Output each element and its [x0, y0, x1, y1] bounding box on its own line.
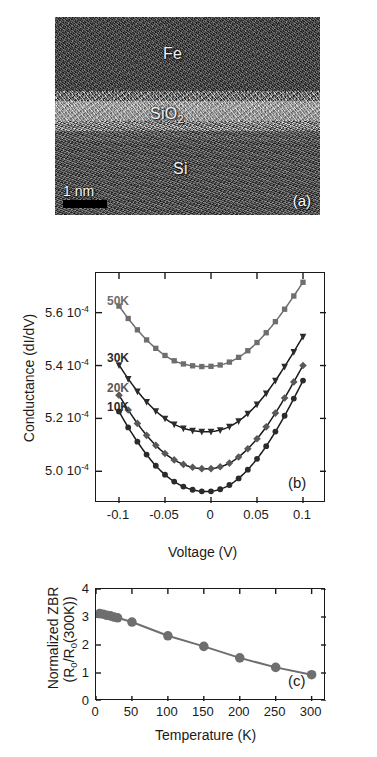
data-point-marker	[208, 488, 214, 494]
panel-a-tag: (a)	[293, 192, 311, 209]
data-point-marker	[236, 476, 242, 482]
data-point-marker	[144, 452, 150, 458]
panel-c-y-tick-label: 4	[82, 581, 89, 596]
data-point-marker	[180, 461, 188, 469]
data-point-marker	[254, 456, 260, 462]
data-point-marker	[171, 479, 177, 485]
ylabel-c-sub2: 0	[68, 643, 79, 648]
panel-c-tag: (c)	[288, 672, 306, 689]
data-point-marker	[180, 484, 186, 490]
panel-b-series-label-30K: 30K	[107, 351, 129, 365]
data-point-marker	[227, 359, 232, 364]
ylabel-c-suffix: (300K))	[61, 596, 77, 643]
scale-bar-line	[63, 200, 107, 208]
data-point-marker	[199, 364, 204, 369]
data-point-marker	[189, 464, 197, 472]
panel-b-x-axis-title: Voltage (V)	[168, 544, 237, 560]
panel-b-x-tick-label: -0.05	[149, 507, 179, 522]
data-point-marker	[162, 472, 168, 478]
data-point-marker	[236, 355, 241, 360]
data-point-marker	[162, 353, 167, 358]
ylabel-c-mid: /R	[61, 648, 77, 662]
panel-c-x-tick-label: 150	[192, 704, 214, 719]
data-point-marker	[272, 429, 278, 435]
tem-label-sio2-subscript: 2	[178, 113, 184, 125]
scale-bar: 1 nm	[63, 183, 107, 208]
data-point-marker	[271, 663, 281, 673]
data-point-marker	[263, 443, 269, 449]
panel-b-y-tick-label: 5.2 10-4	[45, 409, 89, 425]
data-point-marker	[264, 330, 269, 335]
ylabel-c-prefix: (R	[61, 668, 77, 683]
data-point-marker	[163, 631, 173, 641]
y-tick-mantissa: 5.0 10	[45, 463, 81, 478]
data-point-marker	[281, 394, 289, 402]
data-point-marker	[299, 362, 307, 370]
panel-c-series-normalized-zbr	[96, 609, 316, 680]
tem-label-si: Si	[173, 160, 188, 178]
panel-c-y-tick-label: 3	[82, 609, 89, 624]
data-point-marker	[300, 280, 305, 285]
data-point-marker	[207, 465, 215, 473]
scale-bar-label: 1 nm	[63, 183, 107, 199]
data-point-marker	[170, 456, 178, 464]
data-point-marker	[300, 378, 306, 384]
data-point-marker	[245, 348, 250, 353]
panel-b-x-tick-label: 0.1	[293, 507, 311, 522]
panel-c-y-axis-title-line2: (R0/R0(300K))	[61, 579, 80, 699]
data-point-marker	[216, 463, 224, 471]
panel-c-x-axis-title: Temperature (K)	[155, 727, 256, 743]
panel-b-y-tick-label: 5.0 10-4	[45, 462, 89, 478]
data-point-marker	[190, 363, 195, 368]
tem-layer-fe	[55, 17, 320, 101]
panel-b-y-tick-label: 5.4 10-4	[45, 356, 89, 372]
data-point-marker	[226, 482, 232, 488]
data-point-marker	[144, 337, 149, 342]
tem-label-fe: Fe	[163, 45, 182, 63]
data-point-marker	[172, 358, 177, 363]
data-point-marker	[153, 346, 158, 351]
data-point-marker	[198, 465, 206, 473]
y-tick-mantissa: 5.2 10	[45, 411, 81, 426]
data-point-marker	[290, 378, 298, 386]
panel-b-y-tick-label: 5.6 10-4	[45, 303, 89, 319]
data-point-marker	[125, 424, 131, 430]
panel-b-series-label-20K: 20K	[107, 381, 129, 395]
data-point-marker	[226, 459, 234, 467]
panel-b-series-label-50K: 50K	[107, 294, 129, 308]
tem-label-sio2-text: SiO	[150, 105, 178, 122]
panel-c-x-tick-label: 100	[156, 704, 178, 719]
panel-c-x-tick-label: 250	[264, 704, 286, 719]
panel-b-series-30K	[116, 334, 307, 436]
panel-b-x-tick-label: -0.1	[107, 507, 129, 522]
y-tick-exponent: -4	[81, 462, 89, 472]
data-point-marker	[235, 653, 245, 663]
tem-label-sio2: SiO2	[150, 105, 184, 125]
panel-b-tag: (b)	[288, 474, 306, 491]
data-point-marker	[217, 486, 223, 492]
panel-c-x-tick-label: 300	[300, 704, 322, 719]
y-tick-mantissa: 5.6 10	[45, 305, 81, 320]
data-point-marker	[291, 293, 296, 298]
y-tick-exponent: -4	[81, 303, 89, 313]
data-point-marker	[199, 488, 205, 494]
y-tick-exponent: -4	[81, 409, 89, 419]
panel-b-y-axis-title: Conductance (dI/dV)	[21, 288, 37, 468]
panel-b-series-50K	[116, 280, 305, 370]
panel-c-x-tick-label: 0	[91, 704, 98, 719]
data-point-marker	[235, 418, 242, 425]
panel-a-tem-micrograph: Fe SiO2 Si 1 nm (a)	[55, 17, 320, 215]
data-point-marker	[199, 642, 209, 652]
panel-b-plot-frame	[95, 272, 325, 502]
data-point-marker	[190, 487, 196, 493]
figure-root: Fe SiO2 Si 1 nm (a) Conductance (dI/dV) …	[0, 0, 377, 757]
data-point-marker	[254, 340, 259, 345]
data-point-marker	[282, 413, 288, 419]
panel-b-x-tick-label: 0.05	[243, 507, 268, 522]
data-point-marker	[162, 416, 169, 423]
panel-c-y-tick-label: 1	[82, 665, 89, 680]
data-point-marker	[208, 364, 213, 369]
data-point-marker	[153, 463, 159, 469]
data-point-marker	[113, 613, 123, 623]
data-point-marker	[273, 319, 278, 324]
